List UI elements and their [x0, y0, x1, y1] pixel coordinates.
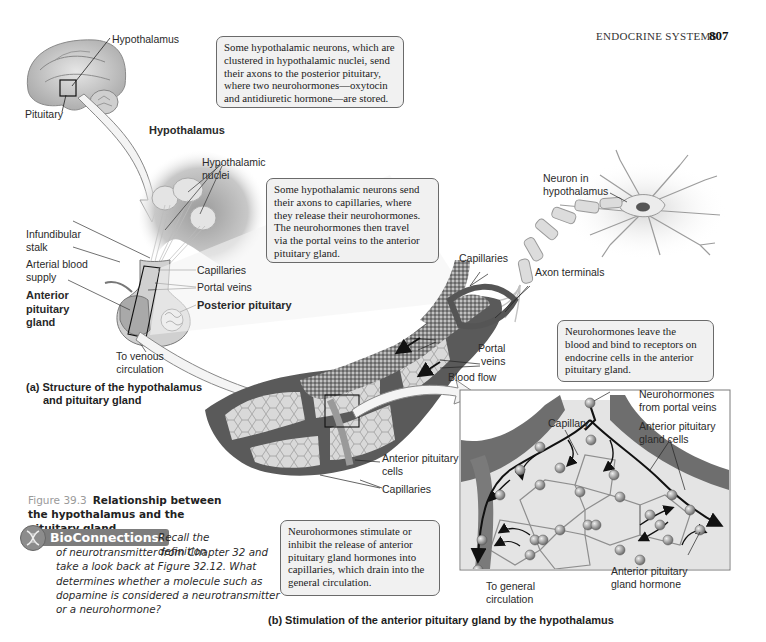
brain-sagittal-illustration [27, 38, 125, 114]
callout-capillaries: Some hypothalamic neurons send their axo… [266, 178, 439, 263]
label-capillaries-top: Capillaries [459, 252, 508, 265]
neuron-illustration [490, 150, 727, 322]
label-anterior-pituitary-gland-cells: Anterior pituitary gland cells [639, 420, 715, 445]
label-venous-circulation: To venous circulation [116, 350, 164, 375]
label-anterior-pituitary-gland: Anterior pituitary gland [26, 289, 69, 330]
figure-number: Figure 39.3 [28, 494, 87, 506]
label-posterior-pituitary: Posterior pituitary [197, 299, 292, 312]
callout-stimulate: Neurohormones stimulate or inhibit the r… [280, 520, 440, 596]
label-neurohormones-portal: Neurohormones from portal veins [639, 388, 717, 413]
label-portal-veins-middle: Portal veins [478, 342, 505, 367]
label-capillaries-a: Capillaries [197, 264, 246, 277]
callout-posterior-pituitary: Some hypothalamic neurons, which are clu… [216, 36, 404, 108]
label-blood-flow: Blood flow [448, 371, 496, 384]
panel-b-caption: (b) Stimulation of the anterior pituitar… [268, 614, 614, 627]
page-number: 807 [709, 28, 729, 44]
label-hypothalamus-brain: Hypothalamus [112, 33, 179, 46]
label-axon-terminals: Axon terminals [535, 266, 604, 279]
label-capillaries-bottom: Capillaries [382, 483, 431, 496]
bioconnections-badge: BioConnections: [28, 529, 169, 546]
label-capillary: Capillary [548, 417, 589, 430]
running-header: ENDOCRINE SYSTEMS [596, 30, 717, 42]
panel-a-caption: (a) Structure of the hypothalamus and pi… [26, 381, 202, 407]
label-pituitary-brain: Pituitary [25, 108, 63, 121]
bioconnections-box: BioConnections: Recall the definition of… [28, 528, 258, 546]
label-hypothalamus-heading: Hypothalamus [149, 124, 225, 137]
label-portal-veins-a: Portal veins [197, 281, 252, 294]
label-to-general-circulation: To general circulation [486, 580, 535, 605]
bioconnections-question: of neurotransmitter from Chapter 32 and … [56, 545, 286, 616]
label-infundibular-stalk: Infundibular stalk [26, 228, 81, 253]
panel-b-illustration [460, 390, 730, 575]
label-neuron-in-hypothalamus: Neuron in hypothalamus [543, 172, 608, 197]
label-hypothalamic-nuclei: Hypothalamic nuclei [202, 156, 266, 181]
label-arterial-blood-supply: Arterial blood supply [26, 258, 88, 283]
label-anterior-pituitary-cells: Anterior pituitary cells [382, 452, 458, 477]
label-anterior-pituitary-gland-hormone: Anterior pituitary gland hormone [611, 565, 687, 590]
dna-helix-icon [20, 525, 46, 551]
callout-receptors: Neurohormones leave the blood and bind t… [557, 320, 714, 382]
